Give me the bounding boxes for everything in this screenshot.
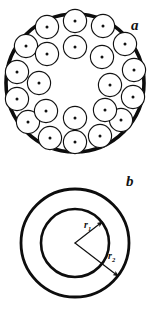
strand-center-dot <box>46 53 49 56</box>
radius-r1-subscript: 1 <box>88 225 91 232</box>
strand-center-dot <box>38 82 41 85</box>
strand-center-dot <box>120 119 123 122</box>
strand-center-dot <box>74 46 77 49</box>
strand-center-dot <box>16 98 19 101</box>
strand-center-dot <box>99 135 102 138</box>
strand-center-dot <box>25 45 28 48</box>
panel-a-label: a <box>131 17 139 33</box>
radius-r2-label: r2 <box>108 250 116 263</box>
panel-a: a <box>5 9 145 153</box>
figure-canvas: a r1 r2 b <box>0 0 158 311</box>
strand-center-dot <box>124 43 127 46</box>
strand-center-dot <box>74 20 77 23</box>
strand-center-dot <box>46 26 49 29</box>
radius-r2-subscript: 2 <box>111 256 116 263</box>
strand-center-dot <box>133 69 136 72</box>
strand-center-dot <box>101 56 104 59</box>
strand-center-dot <box>74 141 77 144</box>
radius-r1-label: r1 <box>84 219 91 232</box>
panel-b-label: b <box>126 173 134 189</box>
strand-center-dot <box>74 117 77 120</box>
strand-center-dot <box>45 110 48 113</box>
strand-center-dot <box>27 121 30 124</box>
panel-b: r1 r2 b <box>21 173 134 297</box>
strand-center-dot <box>49 137 52 140</box>
strand-center-dot <box>16 71 19 74</box>
strand-center-dot <box>132 96 135 99</box>
strand-center-dot <box>102 25 105 28</box>
strand-center-dot <box>104 109 107 112</box>
figure-container: a r1 r2 b <box>0 0 158 311</box>
strand-center-dot <box>109 84 112 87</box>
